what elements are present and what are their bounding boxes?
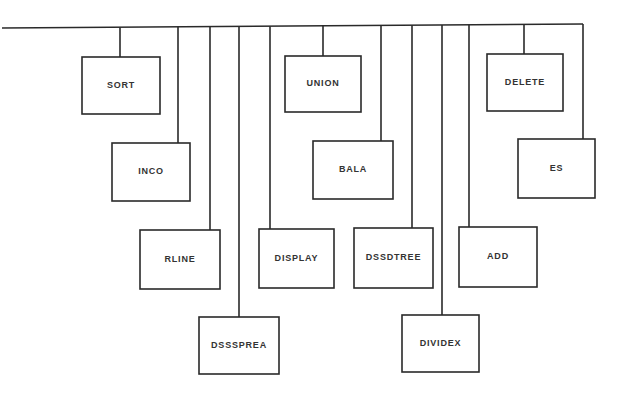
module-label: DELETE <box>505 77 545 87</box>
module-nodes: SORTINCORLINEDSSSPREADISPLAYUNIONBALADSS… <box>82 24 595 374</box>
top-bus-line <box>2 24 583 28</box>
module-label: UNION <box>307 78 340 88</box>
module-label: ADD <box>487 251 509 261</box>
module-label: DIVIDEX <box>420 338 462 348</box>
module-label: RLINE <box>165 254 196 264</box>
module-node-union: UNION <box>285 26 361 112</box>
module-hierarchy-diagram: SORTINCORLINEDSSSPREADISPLAYUNIONBALADSS… <box>0 0 630 404</box>
module-node-dsssprea: DSSSPREA <box>199 26 279 374</box>
module-node-sort: SORT <box>82 27 160 114</box>
module-label: DSSSPREA <box>211 340 267 350</box>
module-label: DSSDTREE <box>366 252 421 262</box>
module-label: ES <box>550 163 564 173</box>
module-node-dividex: DIVIDEX <box>402 25 479 372</box>
module-label: DISPLAY <box>275 253 319 263</box>
module-label: BALA <box>339 164 367 174</box>
module-label: SORT <box>107 80 135 90</box>
module-label: INCO <box>138 166 164 176</box>
module-node-delete: DELETE <box>487 24 563 111</box>
